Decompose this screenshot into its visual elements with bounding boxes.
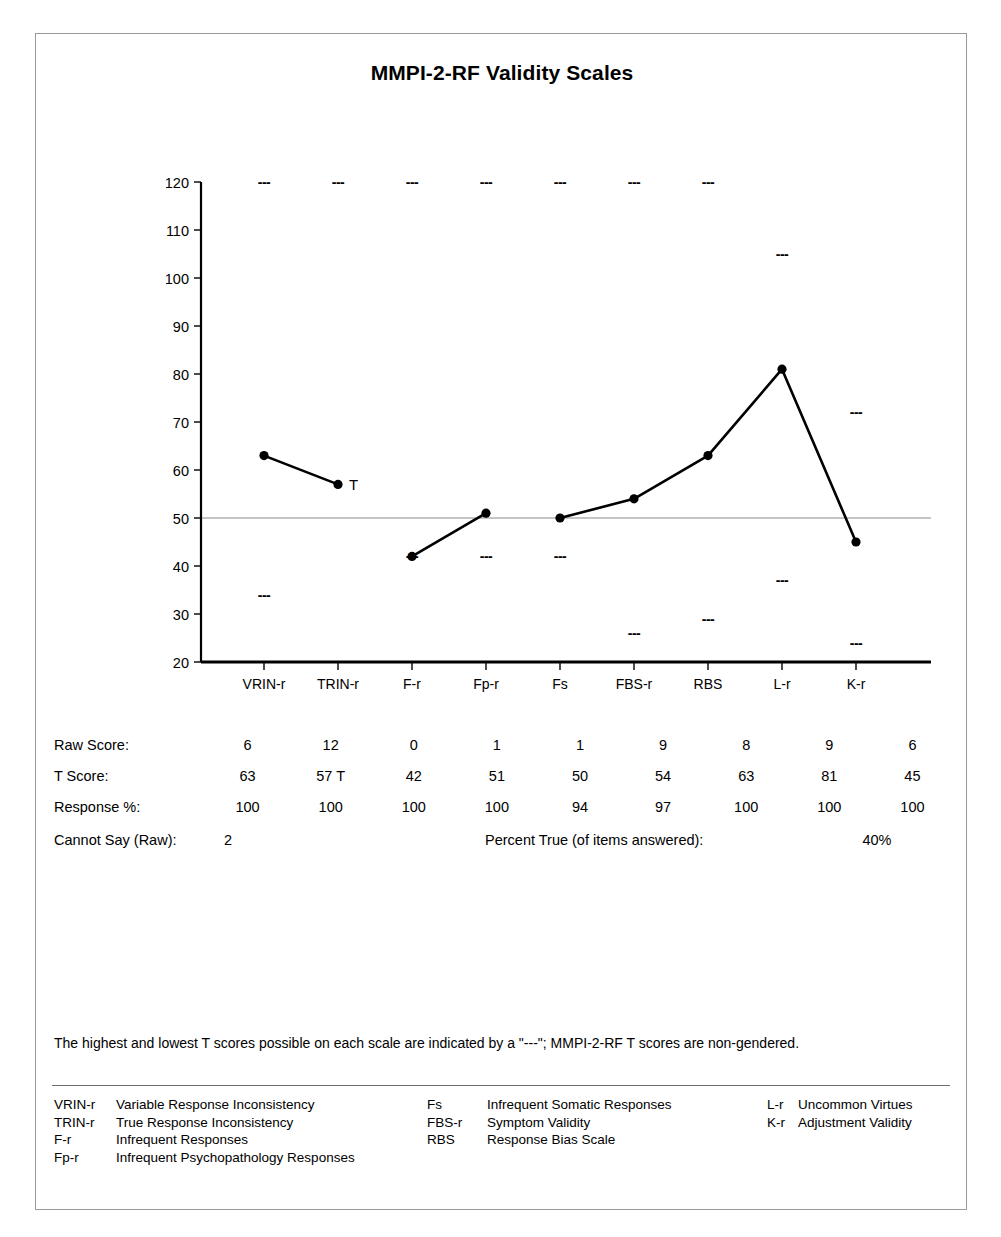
report-frame: MMPI-2-RF Validity Scales 20304050607080… xyxy=(35,33,967,1210)
percent-true-value: 40% xyxy=(854,832,900,848)
y-tick-label: 110 xyxy=(166,223,189,239)
cell-trin-r: 12 xyxy=(289,729,372,760)
legend-column-1: VRIN-rVariable Response InconsistencyTRI… xyxy=(54,1096,424,1166)
cell-rbs: 100 xyxy=(705,791,788,822)
page-title: MMPI-2-RF Validity Scales xyxy=(36,61,968,85)
cell-l-r: 9 xyxy=(788,729,871,760)
row-label: Response %: xyxy=(54,791,206,822)
x-tick-label-rbs: RBS xyxy=(694,676,723,692)
cell-k-r: 100 xyxy=(871,791,954,822)
y-tick-label: 70 xyxy=(173,415,189,431)
max-marker-vrin-r: --- xyxy=(258,174,271,190)
max-marker-f-r: --- xyxy=(406,174,419,190)
table-row: T Score:6357 T42515054638145 xyxy=(54,760,954,791)
legend-item: VRIN-rVariable Response Inconsistency xyxy=(54,1096,424,1114)
y-tick-label: 40 xyxy=(173,559,189,575)
chart-svg: 2030405060708090100110120VRIN-rTRIN-rF-r… xyxy=(166,174,956,694)
y-tick-label: 20 xyxy=(173,655,189,671)
row-label: T Score: xyxy=(54,760,206,791)
cell-k-r: 6 xyxy=(871,729,954,760)
validity-scales-chart: 2030405060708090100110120VRIN-rTRIN-rF-r… xyxy=(166,174,956,694)
min-marker-k-r: --- xyxy=(850,635,863,651)
cell-fbs-r: 54 xyxy=(622,760,705,791)
cell-fs: 94 xyxy=(538,791,621,822)
cell-fbs-r: 97 xyxy=(622,791,705,822)
min-marker-fp-r: --- xyxy=(480,548,493,564)
max-marker-rbs: --- xyxy=(702,174,715,190)
legend-abbr: RBS xyxy=(427,1131,487,1149)
y-tick-label: 100 xyxy=(166,271,189,287)
scores-table-grid: Raw Score:6120119896T Score:6357 T425150… xyxy=(54,729,954,822)
y-tick-label: 50 xyxy=(173,511,189,527)
legend-description: Infrequent Somatic Responses xyxy=(487,1096,672,1114)
legend-abbr: Fp-r xyxy=(54,1149,116,1167)
x-tick-label-k-r: K-r xyxy=(847,676,866,692)
data-point-rbs[interactable] xyxy=(703,451,712,460)
cell-fbs-r: 9 xyxy=(622,729,705,760)
legend-abbr: F-r xyxy=(54,1131,116,1149)
data-point-fbs-r[interactable] xyxy=(629,494,638,503)
x-tick-label-f-r: F-r xyxy=(403,676,421,692)
legend-item: TRIN-rTrue Response Inconsistency xyxy=(54,1114,424,1132)
y-tick-label: 80 xyxy=(173,367,189,383)
legend-item: K-rAdjustment Validity xyxy=(767,1114,967,1132)
scores-table: Raw Score:6120119896T Score:6357 T425150… xyxy=(54,729,954,822)
y-tick-label: 120 xyxy=(166,175,189,191)
row-label: Raw Score: xyxy=(54,729,206,760)
cell-vrin-r: 100 xyxy=(206,791,289,822)
cell-l-r: 100 xyxy=(788,791,871,822)
data-point-vrin-r[interactable] xyxy=(259,451,268,460)
y-tick-label: 60 xyxy=(173,463,189,479)
legend-column-3: L-rUncommon VirtuesK-rAdjustment Validit… xyxy=(767,1096,967,1131)
max-marker-fbs-r: --- xyxy=(628,174,641,190)
table-row: Raw Score:6120119896 xyxy=(54,729,954,760)
data-point-trin-r[interactable] xyxy=(333,480,342,489)
max-marker-trin-r: --- xyxy=(332,174,345,190)
min-marker-vrin-r: --- xyxy=(258,587,271,603)
cell-f-r: 42 xyxy=(372,760,455,791)
legend-description: Symptom Validity xyxy=(487,1114,590,1132)
legend-description: Uncommon Virtues xyxy=(798,1096,913,1114)
y-tick-label: 30 xyxy=(173,607,189,623)
x-tick-label-fs: Fs xyxy=(552,676,568,692)
cell-f-r: 0 xyxy=(372,729,455,760)
legend-abbr: Fs xyxy=(427,1096,487,1114)
series-segment-0 xyxy=(264,456,338,485)
legend-description: Adjustment Validity xyxy=(798,1114,912,1132)
legend-description: Response Bias Scale xyxy=(487,1131,615,1149)
table-row: Response %:1001001001009497100100100 xyxy=(54,791,954,822)
max-marker-fs: --- xyxy=(554,174,567,190)
cell-rbs: 8 xyxy=(705,729,788,760)
legend-abbr: TRIN-r xyxy=(54,1114,116,1132)
legend-item: FsInfrequent Somatic Responses xyxy=(427,1096,737,1114)
data-point-fs[interactable] xyxy=(555,513,564,522)
data-point-fp-r[interactable] xyxy=(481,509,490,518)
footnote-text: The highest and lowest T scores possible… xyxy=(54,1035,944,1051)
cannot-say-label: Cannot Say (Raw): xyxy=(54,832,177,848)
max-marker-k-r: --- xyxy=(850,404,863,420)
data-point-k-r[interactable] xyxy=(851,537,860,546)
annotation-t: T xyxy=(349,476,358,493)
data-point-f-r[interactable] xyxy=(407,552,416,561)
legend-description: True Response Inconsistency xyxy=(116,1114,293,1132)
cell-fs: 1 xyxy=(538,729,621,760)
min-marker-fs: --- xyxy=(554,548,567,564)
cell-vrin-r: 63 xyxy=(206,760,289,791)
legend-column-2: FsInfrequent Somatic ResponsesFBS-rSympt… xyxy=(427,1096,737,1149)
cell-fs: 50 xyxy=(538,760,621,791)
legend-description: Variable Response Inconsistency xyxy=(116,1096,315,1114)
summary-row: Cannot Say (Raw): 2 Percent True (of ite… xyxy=(54,832,954,854)
legend-abbr: FBS-r xyxy=(427,1114,487,1132)
cell-fp-r: 51 xyxy=(455,760,538,791)
legend-item: Fp-rInfrequent Psychopathology Responses xyxy=(54,1149,424,1167)
min-marker-fbs-r: --- xyxy=(628,625,641,641)
legend-item: FBS-rSymptom Validity xyxy=(427,1114,737,1132)
legend-description: Infrequent Responses xyxy=(116,1131,248,1149)
y-tick-label: 90 xyxy=(173,319,189,335)
cell-trin-r: 100 xyxy=(289,791,372,822)
max-marker-l-r: --- xyxy=(776,246,789,262)
x-tick-label-fp-r: Fp-r xyxy=(473,676,499,692)
cannot-say-value: 2 xyxy=(215,832,241,848)
data-point-l-r[interactable] xyxy=(777,365,786,374)
cell-f-r: 100 xyxy=(372,791,455,822)
